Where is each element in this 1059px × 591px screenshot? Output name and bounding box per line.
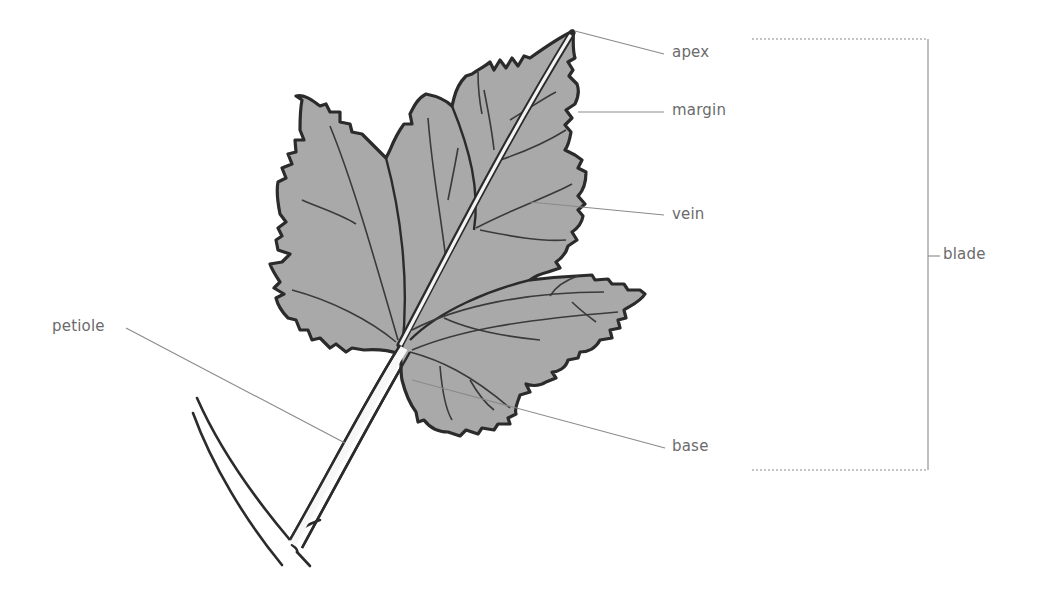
leaf-illustration <box>0 0 1059 591</box>
label-petiole: petiole <box>52 319 105 334</box>
label-blade: blade <box>943 247 986 262</box>
apex-leader <box>575 31 664 54</box>
branch-stem <box>193 398 320 566</box>
label-base: base <box>672 439 709 454</box>
leaf-diagram: apex margin vein blade petiole base <box>0 0 1059 591</box>
blade-bracket <box>752 39 940 470</box>
label-apex: apex <box>672 45 709 60</box>
petiole-leader <box>126 328 345 443</box>
label-vein: vein <box>672 207 705 222</box>
label-margin: margin <box>672 103 726 118</box>
